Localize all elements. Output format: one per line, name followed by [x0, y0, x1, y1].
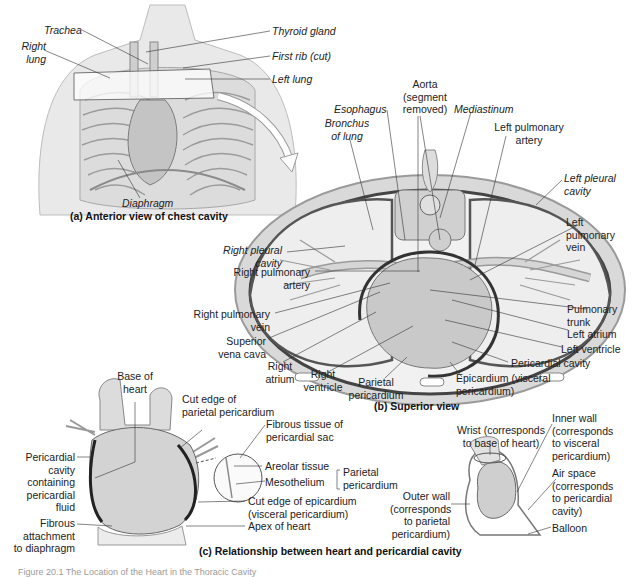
label-fibrous-tissue: Fibrous tissue of pericardial sac [266, 418, 343, 443]
label-diaphragm: Diaphragm [122, 197, 173, 210]
caption-panel-b: (b) Superior view [374, 400, 459, 412]
label-right-pulmonary-vein: Right pulmonary vein [160, 308, 270, 333]
label-right-pulmonary-artery: Right pulmonary artery [160, 266, 310, 291]
anatomy-illustration [0, 0, 633, 578]
label-aorta: Aorta (segment removed) [400, 78, 450, 116]
label-pericardial-cavity: Pericardial cavity [511, 357, 590, 370]
label-superior-vena-cava: Superior vena cava [210, 335, 266, 360]
label-trachea: Trachea [44, 24, 82, 37]
label-cut-edge-parietal: Cut edge of parietal pericardium [182, 393, 274, 418]
label-pericardial-cavity-fluid: Pericardial cavity containing pericardia… [5, 451, 75, 514]
label-balloon: Balloon [552, 522, 587, 535]
label-bronchus: Bronchus of lung [320, 117, 374, 142]
torso-anterior-illustration [39, 5, 298, 215]
label-pulmonary-trunk: Pulmonary trunk [567, 303, 617, 328]
label-left-pulmonary-artery: Left pulmonary artery [486, 121, 572, 146]
label-epicardium: Epicardium (visceral pericardium) [456, 372, 551, 397]
fist-balloon-illustration [466, 437, 540, 535]
label-right-ventricle: Right ventricle [300, 368, 346, 393]
label-parietal-pericardium-b: Parietal pericardium [348, 376, 404, 401]
label-right-lung: Right lung [16, 40, 46, 65]
caption-panel-a: (a) Anterior view of chest cavity [70, 210, 228, 222]
label-parietal-pericardium-c: Parietal pericardium [343, 466, 398, 491]
label-wrist: Wrist (corresponds to base of heart) [445, 424, 557, 449]
label-left-atrium: Left atrium [567, 328, 617, 341]
label-base-of-heart: Base of heart [115, 370, 155, 395]
label-cut-edge-epicardium: Cut edge of epicardium (visceral pericar… [248, 495, 357, 520]
label-mesothelium: Mesothelium [265, 476, 325, 489]
label-first-rib: First rib (cut) [272, 50, 331, 63]
label-mediastinum: Mediastinum [454, 103, 514, 116]
label-areolar-tissue: Areolar tissue [265, 460, 329, 473]
label-left-pulmonary-vein: Left pulmonary vein [566, 216, 615, 254]
label-outer-wall: Outer wall (corresponds to parietal peri… [390, 490, 450, 540]
figure-caption: Figure 20.1 The Location of the Heart in… [18, 567, 256, 577]
label-apex-of-heart: Apex of heart [248, 520, 310, 533]
label-left-ventricle: Left ventricle [561, 343, 621, 356]
label-thyroid-gland: Thyroid gland [272, 25, 336, 38]
label-left-pleural-cavity: Left pleural cavity [564, 172, 616, 197]
label-air-space: Air space (corresponds to pericardial ca… [552, 467, 613, 517]
label-inner-wall: Inner wall (corresponds to visceral peri… [552, 412, 613, 462]
label-esophagus: Esophagus [334, 103, 387, 116]
label-left-lung: Left lung [272, 73, 312, 86]
label-right-atrium: Right atrium [260, 360, 300, 385]
caption-panel-c: (c) Relationship between heart and peric… [199, 545, 462, 557]
label-fibrous-attachment: Fibrous attachment to diaphragm [5, 517, 75, 555]
